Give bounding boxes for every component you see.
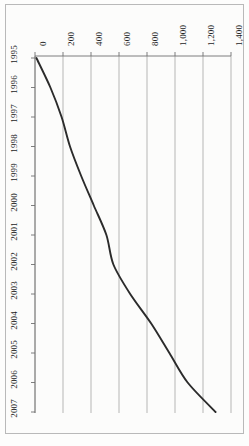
chart-figure: 02004006008001,0001,2001,400 19951996199… [0,0,249,446]
axis-ticks [31,52,231,412]
gridlines [35,56,231,413]
plot-area [0,0,249,446]
